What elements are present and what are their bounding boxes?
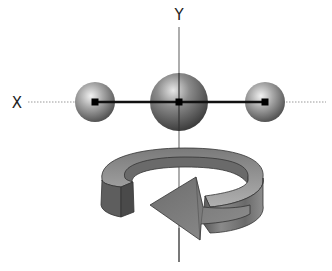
ring-end-cap	[121, 182, 134, 217]
rotation-arrow-icon	[101, 148, 263, 240]
x-axis-label: X	[12, 94, 22, 112]
center-atom-marker	[176, 99, 183, 106]
left-atom-marker	[92, 99, 99, 106]
right-atom-marker	[262, 99, 269, 106]
y-axis-label: Y	[173, 6, 184, 24]
rotation-diagram: Y X	[0, 0, 332, 271]
